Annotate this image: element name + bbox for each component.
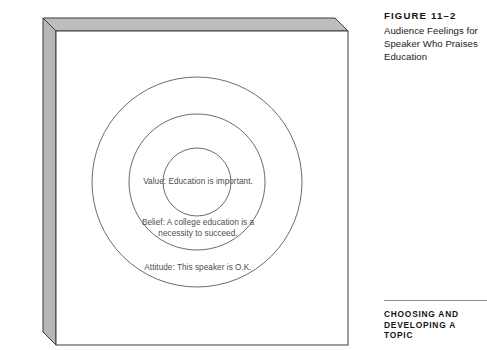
panel-left-face: [43, 18, 56, 345]
panel-top-face: [43, 18, 348, 31]
figure-caption-block: FIGURE 11–2 Audience Feelings for Speake…: [384, 10, 484, 64]
figure-number-label: FIGURE 11–2: [384, 10, 484, 22]
running-head-block: CHOOSING AND DEVELOPING A TOPIC: [384, 300, 487, 341]
footer-divider: [384, 300, 487, 301]
running-head-text: CHOOSING AND DEVELOPING A TOPIC: [384, 309, 487, 341]
figure-caption-text: Audience Feelings for Speaker Who Praise…: [384, 24, 484, 64]
ring-label-attitude: Attitude: This speaker is O.K.: [118, 262, 278, 273]
diagram-panel: Value: Education is important. Belief: A…: [0, 0, 360, 350]
ring-label-belief: Belief: A college education is a necessi…: [118, 217, 278, 239]
concentric-circles-diagram: [0, 0, 360, 350]
ring-label-value: Value: Education is important.: [118, 176, 278, 187]
panel-front-face: [56, 31, 348, 345]
figure-page: Value: Education is important. Belief: A…: [0, 0, 487, 350]
